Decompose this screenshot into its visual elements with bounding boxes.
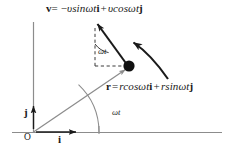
position-equation-term1-arg: ωt	[138, 80, 149, 92]
velocity-equation-term2-unit: j	[139, 2, 143, 14]
position-equation-term2-unit: j	[189, 80, 193, 92]
position-equation-term1-unit: i	[149, 80, 152, 92]
velocity-equation-term2-func: cos	[113, 2, 128, 14]
velocity-equation-term1-unit: i	[96, 2, 99, 14]
velocity-equation-term1-func: sin	[72, 2, 85, 14]
angle-label-top: ωt	[98, 47, 106, 56]
position-equation-term1-func: cos	[123, 80, 138, 92]
particle-dot	[123, 60, 134, 71]
diagram-canvas	[0, 0, 229, 152]
position-equation-lhs: r	[106, 80, 111, 92]
physics-vector-diagram: v= −υsinωti + υcosωtj r = rcosωti + rsin…	[0, 0, 229, 152]
angle-arc-bottom	[79, 85, 100, 132]
velocity-equation-label: v= −υsinωti + υcosωtj	[46, 3, 143, 14]
velocity-equation-equals: = −	[52, 2, 67, 14]
origin-label: O	[24, 133, 31, 143]
position-vector-r	[34, 70, 126, 133]
velocity-equation-plus: +	[101, 2, 107, 14]
unit-vector-j-label: j	[24, 107, 28, 118]
position-equation-term2-func: sin	[165, 80, 178, 92]
position-equation-label: r = rcosωti + rsinωtj	[106, 81, 193, 92]
angle-label-bottom: ωt	[112, 108, 120, 117]
motion-curved-arrow	[134, 43, 169, 80]
position-equation-equals: =	[112, 80, 118, 92]
unit-vector-i-label: i	[58, 134, 61, 145]
velocity-vector-v	[98, 24, 129, 66]
velocity-equation-term2-arg: ωt	[128, 2, 139, 14]
position-equation-term2-arg: ωt	[178, 80, 189, 92]
position-equation-plus: +	[154, 80, 160, 92]
velocity-equation-term1-arg: ωt	[85, 2, 96, 14]
